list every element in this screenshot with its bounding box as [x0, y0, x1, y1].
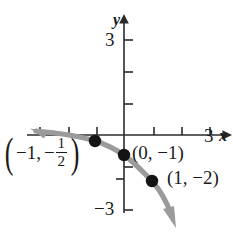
point-a-fraction-sign: − — [44, 143, 55, 162]
y-axis-label: y — [113, 12, 120, 28]
point-c-marker — [146, 175, 158, 187]
figure-canvas: y x 3 −3 3 ( −1, − 1 2 ) (0, −1) (1, −2) — [0, 0, 233, 237]
point-b-marker — [118, 149, 130, 161]
x-tick-label-3: 3 — [204, 126, 214, 145]
curve-right-arrow — [163, 206, 176, 228]
point-a-marker — [89, 135, 101, 147]
point-b-label: (0, −1) — [132, 143, 184, 162]
point-a-close-paren: ) — [70, 138, 79, 168]
x-axis-label: x — [219, 128, 227, 144]
point-a-open-paren: ( — [5, 138, 14, 168]
y-tick-label-3: 3 — [105, 30, 115, 49]
fraction-numerator: 1 — [57, 136, 65, 151]
y-tick-label-minus-3: −3 — [94, 199, 114, 218]
point-c-label: (1, −2) — [167, 168, 219, 187]
point-a-fraction: 1 2 — [56, 136, 67, 170]
coordinate-plane — [0, 0, 233, 237]
y-axis — [116, 22, 133, 213]
point-a-x-value: −1, — [16, 143, 41, 162]
fraction-denominator: 2 — [57, 154, 65, 169]
point-a-label: ( −1, − 1 2 ) — [2, 136, 82, 170]
